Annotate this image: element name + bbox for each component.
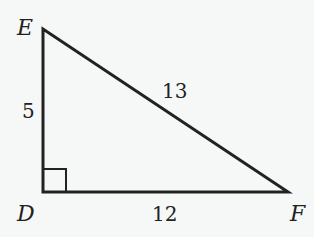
triangle-def	[43, 29, 288, 192]
triangle-diagram: E D F 5 13 12	[0, 0, 314, 237]
side-label-de: 5	[22, 99, 35, 123]
vertex-label-f: F	[289, 201, 306, 226]
vertex-label-e: E	[16, 15, 33, 40]
side-label-df: 12	[152, 202, 177, 226]
vertex-label-d: D	[16, 201, 35, 226]
right-angle-marker	[43, 169, 66, 192]
side-label-ef: 13	[162, 79, 187, 103]
